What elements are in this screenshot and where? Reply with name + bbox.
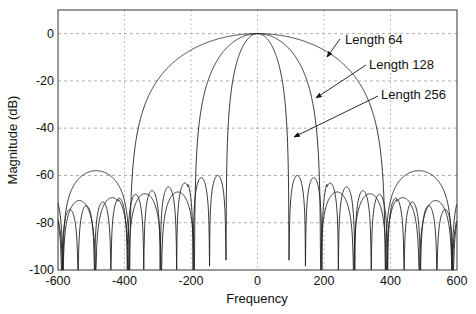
arrow-icon bbox=[294, 96, 378, 137]
x-tick-label: -400 bbox=[112, 274, 137, 288]
y-axis-ticks: 0-20-40-60-80-100 bbox=[29, 27, 54, 277]
x-tick-label: 600 bbox=[447, 274, 468, 288]
x-tick-label: -200 bbox=[178, 274, 203, 288]
annotation-text: Length 64 bbox=[345, 32, 403, 47]
x-tick-label: 400 bbox=[380, 274, 401, 288]
annotation-length-64: Length 64 bbox=[327, 32, 403, 57]
y-axis-label: Magnitude (dB) bbox=[5, 96, 20, 185]
x-axis-label: Frequency bbox=[226, 291, 288, 306]
y-tick-label: -100 bbox=[29, 263, 54, 277]
y-tick-label: -80 bbox=[36, 216, 54, 230]
x-axis-ticks: -600-400-2000200400600 bbox=[45, 274, 467, 288]
magnitude-response-chart: -600-400-2000200400600 0-20-40-60-80-100… bbox=[0, 0, 476, 314]
y-tick-label: -40 bbox=[36, 121, 54, 135]
y-tick-label: -20 bbox=[36, 74, 54, 88]
arrow-icon bbox=[327, 39, 340, 57]
x-tick-label: 0 bbox=[254, 274, 261, 288]
grid-lines bbox=[58, 10, 457, 270]
annotation-text: Length 256 bbox=[381, 87, 446, 102]
y-tick-label: 0 bbox=[47, 27, 54, 41]
y-tick-label: -60 bbox=[36, 168, 54, 182]
annotation-text: Length 128 bbox=[369, 57, 434, 72]
x-tick-label: 200 bbox=[314, 274, 335, 288]
